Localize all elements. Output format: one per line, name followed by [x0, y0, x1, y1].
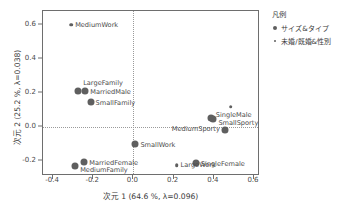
data-point-label: SmallWork [140, 141, 175, 148]
y-tick-label: 0.6 [25, 20, 36, 28]
correspondence-analysis-chart: LargeFamilyMarriedMaleSmallFamilyMediumF… [0, 0, 345, 213]
data-point [175, 163, 179, 167]
y-axis-title: 次元 2 (25.2 %, λ=0.038) [11, 18, 22, 178]
legend-item[interactable]: 未婚/既婚&性別 [272, 36, 344, 46]
data-point [87, 99, 94, 106]
legend: 凡例 サイズ&タイプ未婚/既婚&性別 [272, 8, 344, 49]
data-point-label: SmallFamily [96, 100, 136, 107]
data-point [81, 158, 88, 165]
legend-items: サイズ&タイプ未婚/既婚&性別 [272, 23, 344, 46]
x-tick-label: -0.4 [45, 176, 59, 184]
y-tick-mark [38, 159, 42, 160]
data-point-label: MarriedMale [90, 89, 131, 96]
data-point-label: LargeFamily [83, 79, 123, 86]
data-point [75, 87, 82, 94]
x-tick-label: -0.2 [85, 176, 99, 184]
x-tick-label: 0.4 [207, 176, 218, 184]
data-point [221, 127, 228, 134]
y-tick-label: 0.2 [25, 88, 36, 96]
data-point-label: SmallSporty [218, 119, 258, 126]
data-point-label: LargeWork [181, 162, 216, 169]
y-tick-label: 0.0 [25, 122, 36, 130]
data-point [229, 105, 233, 109]
gridline-x-zero [133, 11, 134, 174]
legend-item[interactable]: サイズ&タイプ [272, 23, 344, 33]
data-point-label: MediumFamily [80, 167, 128, 174]
x-tick-label: 0.0 [127, 176, 138, 184]
data-point [82, 88, 89, 95]
y-tick-mark [38, 91, 42, 92]
x-tick-label: 0.6 [247, 176, 258, 184]
data-point-label: MediumSporty [172, 126, 220, 133]
y-tick-mark [38, 23, 42, 24]
x-tick-label: 0.2 [167, 176, 178, 184]
data-point-label: MarriedFemale [89, 159, 138, 166]
y-tick-mark [38, 125, 42, 126]
legend-marker-icon [273, 26, 277, 30]
data-point [69, 23, 73, 27]
data-point [72, 163, 79, 170]
y-tick-label: -0.2 [22, 156, 36, 164]
legend-title: 凡例 [272, 8, 344, 19]
y-tick-label: 0.4 [25, 54, 36, 62]
data-point [210, 115, 217, 122]
legend-item-label: サイズ&タイプ [281, 23, 328, 33]
legend-marker-icon [274, 40, 277, 43]
y-tick-mark [38, 57, 42, 58]
plot-area: LargeFamilyMarriedMaleSmallFamilyMediumF… [42, 10, 259, 175]
data-point-label: MediumWork [75, 21, 118, 28]
x-axis-title: 次元 1 (64.6 %, λ=0.096) [42, 190, 259, 201]
data-point [132, 140, 139, 147]
legend-item-label: 未婚/既婚&性別 [281, 36, 331, 46]
